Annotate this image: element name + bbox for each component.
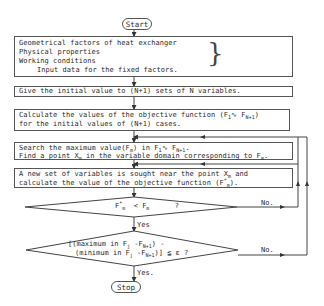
search-text: Search the maximum value(F [19, 144, 130, 152]
search-line-1: Search the maximum value(Fm) in F1∿ FN+1… [19, 144, 288, 152]
stop-terminal: Stop [111, 281, 141, 293]
input-line-physical: Physical properties [19, 48, 288, 57]
search-text: . [185, 144, 189, 152]
search-line-2: Find a point Xm in the variable domain c… [19, 152, 288, 160]
decision-text: ) - [152, 240, 165, 248]
decision-question-mark: ? [175, 202, 179, 210]
decision-operator: < [134, 202, 138, 210]
decision-2-condition: [(maximum in Fj -FN+1) - (minimum in Fj … [68, 240, 188, 258]
subscript: m [122, 205, 125, 211]
newset-text: A new set of variables is sought near th… [19, 170, 228, 178]
calculate-objective-box: Calculate the values of the objective fu… [14, 109, 290, 131]
start-terminal: Start [122, 18, 152, 30]
input-line-working: Working conditions [19, 57, 288, 66]
decision-text: [(maximum in F [68, 240, 127, 248]
initial-value-text: Give the initial value to (N+1) sets of … [19, 87, 241, 95]
decision-text: -F [130, 240, 143, 248]
search-text: . [264, 152, 268, 160]
decision-text: (minimum in F [75, 249, 130, 257]
input-data-box: Geometrical factors of heat exchanger Ph… [14, 36, 293, 77]
newset-text: ). [230, 179, 239, 187]
newset-line-2: calculate the value of the objective fun… [19, 179, 288, 188]
decision-text: -F [133, 249, 146, 257]
initial-value-box: Give the initial value to (N+1) sets of … [14, 86, 293, 97]
decision-text: )] ≦ ε ? [155, 249, 189, 257]
input-caption: Input data for the fixed factors. [19, 66, 288, 75]
newset-text: calculate the value of the objective fun… [19, 179, 224, 187]
start-label: Start [126, 20, 149, 29]
decision-2-line-1: [(maximum in Fj -FN+1) - [68, 240, 188, 249]
newset-text: and [231, 170, 248, 178]
decision-2-line-2: (minimum in Fj -FN+1)] ≦ ε ? [68, 249, 188, 258]
search-text: in the variable domain corresponding to … [82, 152, 261, 160]
search-text: ) in F [133, 144, 159, 152]
subscript: N+1 [246, 114, 255, 120]
calc-text: ) [255, 111, 259, 119]
decision-1-no-label: No. [261, 199, 274, 207]
right-brace-icon: } [207, 40, 224, 66]
decision-2-yes-label: Yes. [137, 269, 154, 277]
calc-line-2: for the initial values of (N+1) cases. [19, 120, 285, 129]
input-line-geometry: Geometrical factors of heat exchanger [19, 39, 288, 48]
subscript: N+1 [145, 252, 154, 258]
calc-line-1: Calculate the values of the objective fu… [19, 111, 285, 120]
search-text: Find a point X [19, 152, 79, 160]
newset-line-1: A new set of variables is sought near th… [19, 170, 288, 179]
decision-2-no-label: No. [261, 246, 274, 254]
decision-1-yes-label: Yes [137, 221, 150, 229]
decision-1-condition: F*m < Fm ? [115, 202, 179, 211]
subscript: m [146, 205, 149, 211]
calc-text: Calculate the values of the objective fu… [19, 111, 228, 119]
stop-label: Stop [117, 283, 135, 292]
search-text: ∿ F [162, 144, 177, 152]
search-maximum-box: Search the maximum value(Fm) in F1∿ FN+1… [14, 142, 293, 160]
new-set-box: A new set of variables is sought near th… [14, 168, 293, 188]
calc-text: ∿ F [231, 111, 246, 119]
